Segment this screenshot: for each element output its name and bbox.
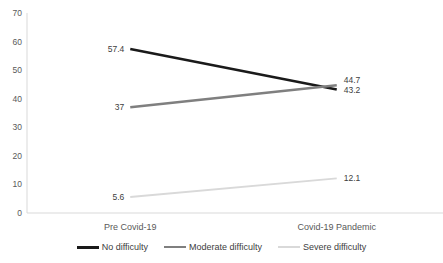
series-line-severe-difficulty: [130, 178, 337, 197]
y-tick-label: 10: [13, 179, 23, 189]
x-category-label: Pre Covid-19: [104, 222, 157, 232]
data-label-start-severe-difficulty: 5.6: [112, 192, 124, 202]
y-tick-label: 40: [13, 94, 23, 104]
legend-marker-severe-difficulty: [278, 246, 300, 248]
chart-legend: No difficultyModerate difficultySevere d…: [0, 242, 443, 252]
legend-marker-moderate-difficulty: [164, 246, 186, 248]
legend-label: Severe difficulty: [303, 242, 366, 252]
data-label-end-moderate-difficulty: 44.7: [344, 75, 361, 85]
legend-label: No difficulty: [102, 242, 148, 252]
y-tick-label: 60: [13, 37, 23, 47]
series-line-no-difficulty: [130, 49, 337, 90]
y-tick-label: 50: [13, 65, 23, 75]
legend-item-severe-difficulty: Severe difficulty: [278, 242, 366, 252]
legend-marker-no-difficulty: [77, 246, 99, 249]
y-tick-label: 30: [13, 122, 23, 132]
x-category-label: Covid-19 Pandemic: [297, 222, 376, 232]
data-label-end-no-difficulty: 43.2: [344, 85, 361, 95]
data-label-start-moderate-difficulty: 37: [115, 102, 125, 112]
difficulty-line-chart: 010203040506070Pre Covid-19Covid-19 Pand…: [0, 0, 443, 263]
chart-plot-area: 010203040506070Pre Covid-19Covid-19 Pand…: [0, 0, 443, 263]
data-label-start-no-difficulty: 57.4: [108, 44, 125, 54]
series-line-moderate-difficulty: [130, 85, 337, 107]
legend-item-moderate-difficulty: Moderate difficulty: [164, 242, 262, 252]
legend-item-no-difficulty: No difficulty: [77, 242, 148, 252]
y-tick-label: 70: [13, 8, 23, 18]
y-tick-label: 20: [13, 151, 23, 161]
legend-label: Moderate difficulty: [189, 242, 262, 252]
data-label-end-severe-difficulty: 12.1: [344, 173, 361, 183]
y-tick-label: 0: [17, 208, 22, 218]
